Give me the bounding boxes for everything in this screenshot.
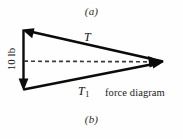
tension-lower-shaft bbox=[24, 64, 157, 90]
figure-label-b: (b) bbox=[0, 113, 183, 125]
tension-lower-label: T1 bbox=[78, 84, 89, 99]
tension-lower-label-base: T bbox=[78, 84, 85, 98]
weight-label: 10 lb bbox=[5, 39, 17, 79]
resultant-dashed-shaft bbox=[24, 61, 150, 62]
tension-upper-label: T bbox=[84, 30, 91, 45]
tension-lower-label-subscript: 1 bbox=[85, 90, 89, 99]
force-diagram-caption: force diagram bbox=[105, 87, 165, 98]
tension-lower-vector bbox=[24, 58, 165, 89]
tension-upper-vector bbox=[22, 28, 163, 61]
tension-upper-shaft bbox=[30, 32, 163, 62]
force-diagram-figure: (a) T T1 10 lb force diagram (b) bbox=[0, 0, 183, 139]
